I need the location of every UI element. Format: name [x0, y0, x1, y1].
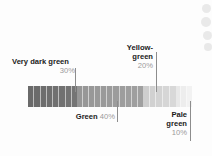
label-pale-green-name-line1: Pale: [140, 110, 187, 119]
label-pale-green-name-line2: green: [140, 119, 187, 128]
label-yellow-green-name-line2: green: [108, 52, 153, 61]
scan-artifact-1: [202, 4, 211, 13]
label-very-dark-green: Very dark green 30%: [12, 57, 75, 75]
scan-artifact-4: [204, 43, 212, 51]
label-very-dark-green-percent: 30%: [12, 66, 75, 75]
label-green-percent: 40%: [100, 112, 115, 121]
leader-line-yellow-green: [156, 52, 157, 92]
bar-stripe: [163, 86, 170, 107]
leader-line-green: [117, 101, 118, 122]
bar-segment-very-dark-green: [28, 86, 77, 107]
bar-segment-yellow-green: [143, 86, 176, 107]
label-pale-green: Pale green 10%: [140, 110, 187, 138]
leader-line-pale-green: [190, 101, 191, 141]
label-yellow-green: Yellow- green 20%: [108, 43, 153, 71]
bar-segment-green: [77, 86, 143, 107]
leader-line-very-dark-green: [75, 68, 76, 92]
bar-stripe: [143, 86, 150, 107]
label-green: Green 40%: [55, 112, 115, 121]
label-very-dark-green-name: Very dark green: [12, 57, 75, 66]
bar-stripe: [156, 86, 163, 107]
color-proportion-figure: Very dark green 30% Yellow- green 20% Gr…: [0, 0, 212, 156]
scan-artifact-2: [201, 17, 211, 27]
scan-artifact-3: [203, 31, 212, 40]
color-proportion-bar: [28, 86, 192, 107]
label-green-name: Green: [76, 112, 98, 121]
label-yellow-green-percent: 20%: [108, 61, 153, 70]
label-yellow-green-name-line1: Yellow-: [108, 43, 153, 52]
label-pale-green-percent: 10%: [140, 128, 187, 137]
